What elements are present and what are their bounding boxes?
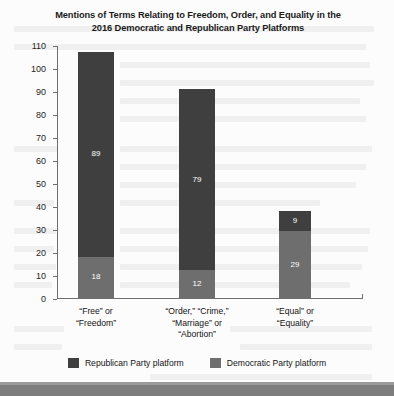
y-tick-label-30: 30 bbox=[36, 226, 46, 235]
chart-title-line-1: Mentions of Terms Relating to Freedom, O… bbox=[22, 9, 374, 22]
y-tick-label-110: 110 bbox=[32, 42, 46, 51]
bar-segment-republican-equal[interactable]: 9 bbox=[279, 211, 311, 232]
bar-value-democratic-equal: 29 bbox=[291, 261, 300, 269]
legend-item-democratic[interactable]: Democratic Party platform bbox=[210, 358, 326, 368]
x-category-label-equal-equality-line-1: “Equal” or bbox=[235, 306, 355, 318]
legend-swatch-democratic-icon bbox=[210, 358, 221, 368]
y-tick-label-50: 50 bbox=[36, 180, 46, 189]
x-axis-endcap bbox=[362, 294, 363, 299]
y-tick-70: 70 bbox=[53, 138, 57, 139]
bar-group-order-crime[interactable]: 79 12 bbox=[179, 89, 215, 298]
page-bottom-band-highlight bbox=[0, 382, 394, 385]
bar-segment-democratic-order[interactable]: 12 bbox=[179, 270, 215, 298]
y-tick-30: 30 bbox=[53, 230, 57, 231]
x-category-label-equal-equality: “Equal” or “Equality” bbox=[235, 306, 355, 329]
page-bottom-band bbox=[0, 382, 394, 396]
y-tick-label-90: 90 bbox=[36, 88, 46, 97]
y-tick-label-20: 20 bbox=[36, 249, 46, 258]
bar-segment-democratic-free[interactable]: 18 bbox=[78, 257, 114, 298]
y-tick-10: 10 bbox=[53, 276, 57, 277]
y-tick-80: 80 bbox=[53, 115, 57, 116]
y-tick-label-60: 60 bbox=[36, 157, 46, 166]
bar-value-republican-equal: 9 bbox=[293, 217, 297, 225]
legend-item-republican[interactable]: Republican Party platform bbox=[68, 358, 184, 368]
bar-value-democratic-free: 18 bbox=[92, 273, 101, 281]
bar-segment-democratic-equal[interactable]: 29 bbox=[279, 231, 311, 298]
legend-label-republican: Republican Party platform bbox=[85, 359, 184, 368]
y-tick-0: 0 bbox=[53, 299, 57, 300]
legend-label-democratic: Democratic Party platform bbox=[227, 359, 326, 368]
y-tick-label-100: 100 bbox=[31, 65, 46, 74]
y-tick-40: 40 bbox=[53, 207, 57, 208]
y-tick-60: 60 bbox=[53, 161, 57, 162]
y-tick-label-80: 80 bbox=[36, 111, 46, 120]
y-tick-20: 20 bbox=[53, 253, 57, 254]
chart-title: Mentions of Terms Relating to Freedom, O… bbox=[22, 9, 374, 34]
bar-segment-republican-free[interactable]: 89 bbox=[78, 52, 114, 257]
bar-value-democratic-order: 12 bbox=[193, 280, 202, 288]
chart-figure: Mentions of Terms Relating to Freedom, O… bbox=[0, 0, 394, 396]
y-tick-110: 110 bbox=[53, 46, 57, 47]
bar-value-republican-free: 89 bbox=[92, 150, 101, 158]
x-category-label-order-crime-line-3: “Abortion” bbox=[137, 329, 257, 341]
y-tick-label-70: 70 bbox=[36, 134, 46, 143]
y-tick-label-10: 10 bbox=[36, 272, 46, 281]
x-axis-line bbox=[57, 298, 363, 299]
plot-area: 110 100 90 80 70 60 50 40 30 20 10 bbox=[57, 46, 363, 299]
y-tick-100: 100 bbox=[53, 69, 57, 70]
bar-segment-republican-order[interactable]: 79 bbox=[179, 89, 215, 271]
chart-title-line-2: 2016 Democratic and Republican Party Pla… bbox=[22, 22, 374, 35]
legend-swatch-republican-icon bbox=[68, 358, 79, 368]
y-tick-label-0: 0 bbox=[41, 295, 46, 304]
y-axis-line bbox=[57, 46, 58, 299]
bar-group-equal-equality[interactable]: 9 29 bbox=[279, 211, 311, 298]
y-tick-50: 50 bbox=[53, 184, 57, 185]
bar-value-republican-order: 79 bbox=[193, 176, 202, 184]
x-category-label-equal-equality-line-2: “Equality” bbox=[235, 318, 355, 330]
chart-legend: Republican Party platform Democratic Par… bbox=[0, 358, 394, 368]
bar-group-free-freedom[interactable]: 89 18 bbox=[78, 52, 114, 298]
y-tick-90: 90 bbox=[53, 92, 57, 93]
y-tick-label-40: 40 bbox=[36, 203, 46, 212]
